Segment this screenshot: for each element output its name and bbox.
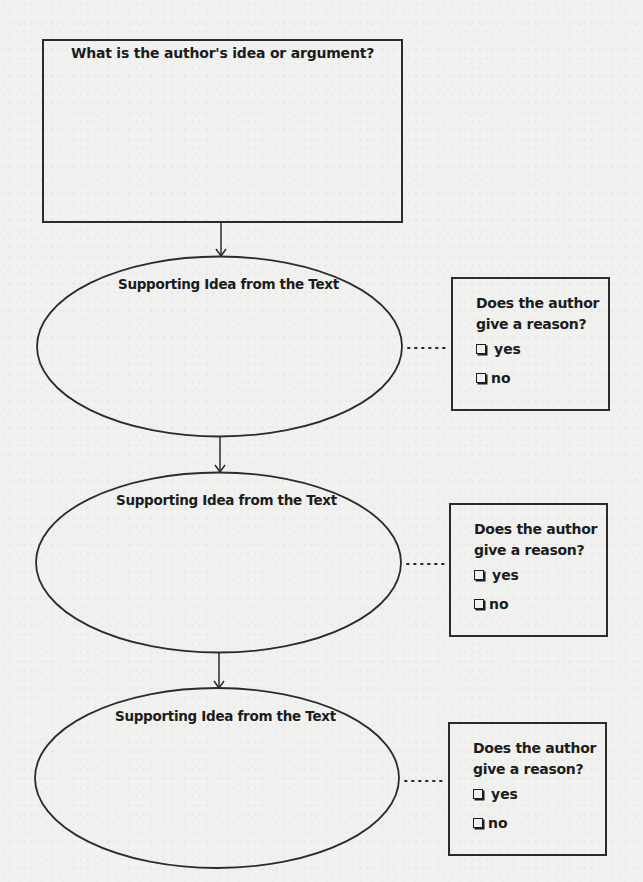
supporting-idea-label-2: Supporting Idea from the Text [116,492,337,508]
reason-question-line1: Does the author [473,738,596,759]
supporting-idea-label-1: Supporting Idea from the Text [118,276,339,292]
yes-label: yes [494,341,521,357]
supporting-idea-label-3: Supporting Idea from the Text [115,708,336,724]
reason-question: Does the author give a reason? [473,738,596,780]
no-label: no [488,815,508,831]
author-argument-box[interactable]: What is the author's idea or argument? [42,39,403,223]
author-argument-title: What is the author's idea or argument? [44,45,401,61]
reason-box-3: Does the author give a reason? yes no [448,722,607,856]
reason-question: Does the author give a reason? [474,519,597,561]
reason-question: Does the author give a reason? [476,293,599,335]
reason-question-line1: Does the author [474,519,597,540]
no-label: no [489,596,509,612]
reason-question-line2: give a reason? [474,540,597,561]
arrow-down-icon [214,653,224,688]
no-option[interactable]: no [473,815,508,831]
yes-option[interactable]: yes [476,341,521,357]
yes-option[interactable]: yes [473,786,518,802]
arrow-down-icon [215,437,225,472]
yes-label: yes [491,786,518,802]
no-label: no [491,370,511,386]
checkbox-icon[interactable] [476,373,486,383]
arrow-down-icon [216,221,226,256]
reason-question-line2: give a reason? [473,759,596,780]
yes-label: yes [492,567,519,583]
checkbox-icon[interactable] [476,344,486,354]
yes-option[interactable]: yes [474,567,519,583]
checkbox-icon[interactable] [473,818,483,828]
reason-question-line1: Does the author [476,293,599,314]
no-option[interactable]: no [476,370,511,386]
no-option[interactable]: no [474,596,509,612]
reason-box-2: Does the author give a reason? yes no [449,503,608,637]
checkbox-icon[interactable] [474,570,484,580]
checkbox-icon[interactable] [474,599,484,609]
reason-box-1: Does the author give a reason? yes no [451,277,610,411]
reason-question-line2: give a reason? [476,314,599,335]
checkbox-icon[interactable] [473,789,483,799]
